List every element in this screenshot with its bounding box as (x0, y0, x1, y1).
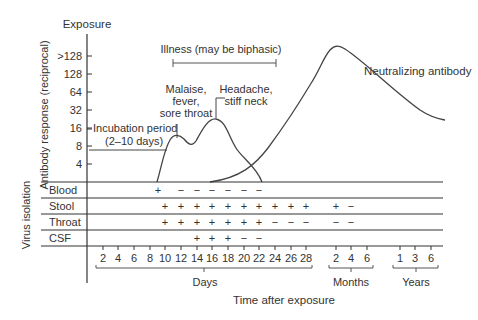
svg-text:26: 26 (285, 252, 297, 264)
svg-text:fever,: fever, (173, 95, 200, 107)
svg-text:sore throat: sore throat (160, 107, 213, 119)
svg-text:Incubation period: Incubation period (93, 122, 177, 134)
svg-text:+: + (288, 200, 294, 212)
svg-text:+: + (225, 200, 231, 212)
x-ticks-months: 2 4 6 Months (329, 246, 373, 288)
svg-text:−: − (194, 184, 200, 196)
svg-text:+: + (178, 200, 184, 212)
svg-text:+: + (209, 216, 215, 228)
x-ticks-days: 2 4 6 8 10 12 14 16 18 20 22 24 26 28 Da… (96, 246, 312, 288)
svg-text:+: + (303, 200, 309, 212)
svg-text:+: + (178, 216, 184, 228)
svg-text:16: 16 (70, 122, 82, 134)
svg-text:18: 18 (222, 252, 234, 264)
svg-text:+: + (272, 200, 278, 212)
svg-text:−: − (241, 232, 247, 244)
svg-text:10: 10 (159, 252, 171, 264)
x-ticks-years: 1 3 6 Years (393, 246, 438, 288)
svg-text:+: + (256, 200, 262, 212)
virus-isolation-label: Virus isolation (20, 181, 32, 249)
exposure-label: Exposure (63, 18, 112, 30)
illness-bracket: Illness (may be biphasic) (160, 43, 281, 67)
svg-text:3: 3 (412, 252, 418, 264)
svg-text:−: − (303, 216, 309, 228)
svg-text:stiff neck: stiff neck (224, 95, 268, 107)
svg-text:−: − (333, 216, 339, 228)
svg-text:>128: >128 (57, 50, 82, 62)
svg-text:−: − (348, 216, 354, 228)
svg-text:+: + (225, 232, 231, 244)
svg-text:128: 128 (64, 68, 82, 80)
svg-text:−: − (348, 200, 354, 212)
svg-text:Years: Years (402, 276, 430, 288)
svg-text:20: 20 (238, 252, 250, 264)
x-axis-label: Time after exposure (233, 294, 335, 306)
svg-text:Months: Months (333, 276, 370, 288)
svg-text:Illness (may be biphasic): Illness (may be biphasic) (160, 43, 281, 55)
svg-text:4: 4 (348, 252, 354, 264)
chart: Exposure Antibody response (reciprocal) … (0, 0, 478, 320)
svg-text:14: 14 (191, 252, 203, 264)
svg-text:28: 28 (300, 252, 312, 264)
svg-text:Days: Days (192, 276, 218, 288)
svg-text:+: + (155, 184, 161, 196)
svg-text:−: − (209, 184, 215, 196)
svg-text:−: − (272, 216, 278, 228)
svg-text:4: 4 (115, 252, 121, 264)
svg-text:6: 6 (364, 252, 370, 264)
svg-text:+: + (241, 200, 247, 212)
svg-text:+: + (225, 216, 231, 228)
svg-text:6: 6 (131, 252, 137, 264)
incubation-annotation: Incubation period (2–10 days) (87, 122, 177, 150)
svg-text:+: + (194, 216, 200, 228)
svg-text:+: + (333, 200, 339, 212)
svg-text:+: + (256, 216, 262, 228)
svg-text:−: − (288, 216, 294, 228)
headache-annotation: Headache, stiff neck (216, 83, 273, 118)
svg-text:1: 1 (397, 252, 403, 264)
svg-text:16: 16 (206, 252, 218, 264)
svg-text:6: 6 (428, 252, 434, 264)
svg-text:+: + (209, 200, 215, 212)
svg-text:−: − (256, 184, 262, 196)
svg-text:22: 22 (253, 252, 265, 264)
svg-text:Throat: Throat (49, 216, 81, 228)
svg-text:32: 32 (70, 104, 82, 116)
svg-text:+: + (162, 216, 168, 228)
svg-text:+: + (194, 200, 200, 212)
svg-text:+: + (241, 216, 247, 228)
svg-text:24: 24 (269, 252, 281, 264)
svg-text:2: 2 (333, 252, 339, 264)
svg-text:(2–10 days): (2–10 days) (105, 135, 163, 147)
svg-text:Headache,: Headache, (219, 83, 272, 95)
svg-text:Blood: Blood (49, 184, 77, 196)
svg-text:+: + (194, 232, 200, 244)
svg-text:CSF: CSF (49, 232, 71, 244)
svg-text:−: − (178, 184, 184, 196)
svg-text:Stool: Stool (49, 200, 74, 212)
svg-text:+: + (162, 200, 168, 212)
svg-text:64: 64 (70, 86, 82, 98)
svg-text:Malaise,: Malaise, (166, 83, 207, 95)
svg-text:12: 12 (175, 252, 187, 264)
svg-text:−: − (225, 184, 231, 196)
svg-text:2: 2 (100, 252, 106, 264)
antibody-label: Neutralizing antibody (364, 65, 472, 77)
svg-text:4: 4 (76, 158, 82, 170)
svg-text:+: + (209, 232, 215, 244)
svg-text:−: − (241, 184, 247, 196)
svg-text:−: − (256, 232, 262, 244)
y-axis-label: Antibody response (reciprocal) (38, 40, 50, 189)
svg-text:8: 8 (76, 140, 82, 152)
svg-text:8: 8 (147, 252, 153, 264)
